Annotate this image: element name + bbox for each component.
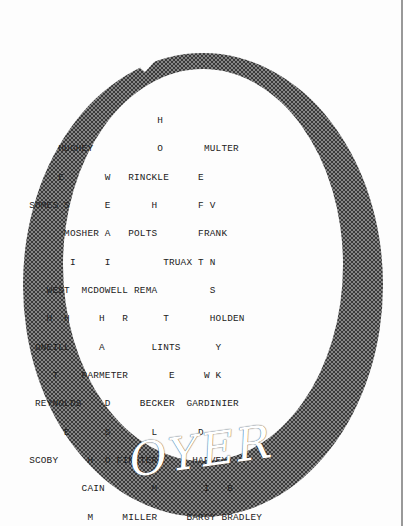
puzzle-page: H HUGHEY O MULTER E W RINCKLE E SOMES S … [0,0,403,526]
grid-line: SOMES S E H F V [0,201,403,210]
grid-line: WEST MCDOWELL REMA S [0,286,403,295]
grid-line: HUGHEY O MULTER [0,144,403,153]
grid-line: ONEILL A LINTS Y [0,343,403,352]
grid-line: H H H R T HOLDEN [0,314,403,323]
grid-line: M MILLER BARGY BRADLEY [0,513,403,522]
grid-line: I I TRUAX T N [0,258,403,267]
grid-line: H [0,116,403,125]
grid-line: MOSHER A POLTS FRANK [0,229,403,238]
grid-line: E W RINCKLE E [0,173,403,182]
grid-line: T PARMETER E W K [0,371,403,380]
